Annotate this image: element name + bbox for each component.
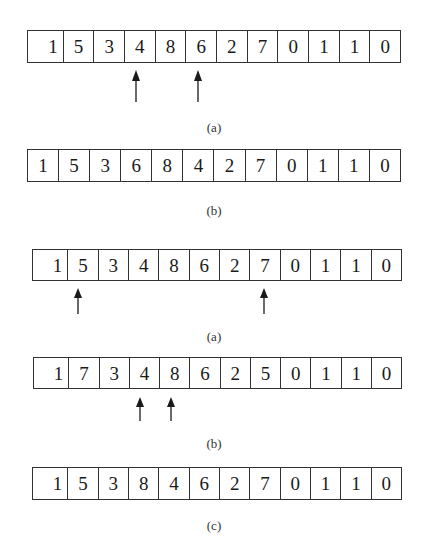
gene-cell: 0 xyxy=(277,150,308,181)
panel-caption: (b) xyxy=(0,203,428,219)
gene-cell: 0 xyxy=(281,358,311,388)
gene-cell: 0 xyxy=(372,468,401,499)
gene-cell: 5 xyxy=(68,468,98,499)
gene-cell: 5 xyxy=(251,358,281,388)
gene-cell: 4 xyxy=(183,150,214,181)
chromosome-row-fig2-a: 1 5 3 4 8 6 2 7 0 1 1 0 xyxy=(32,249,402,281)
gene-cell: 6 xyxy=(190,250,220,280)
gene-cell: 7 xyxy=(69,358,99,388)
gene-cell: 2 xyxy=(217,31,248,62)
panel-caption: (b) xyxy=(0,436,428,452)
gene-cell: 2 xyxy=(220,250,250,280)
gene-cell: 1 xyxy=(33,250,68,280)
panel-caption: (a) xyxy=(0,329,428,345)
gene-cell: 0 xyxy=(281,468,311,499)
gene-cell: 6 xyxy=(190,358,220,388)
gene-cell: 7 xyxy=(248,31,279,62)
gene-cell: 1 xyxy=(33,468,68,499)
gene-cell: 8 xyxy=(159,250,189,280)
gene-cell: 1 xyxy=(342,358,372,388)
up-arrow-icon xyxy=(193,70,203,102)
gene-cell: 1 xyxy=(311,468,341,499)
panel-caption: (c) xyxy=(0,518,428,534)
gene-cell: 6 xyxy=(186,31,217,62)
gene-cell: 7 xyxy=(250,468,280,499)
gene-cell: 4 xyxy=(125,31,156,62)
gene-cell: 0 xyxy=(370,150,400,181)
gene-cell: 1 xyxy=(341,468,371,499)
up-arrow-icon xyxy=(131,70,141,102)
panel-caption: (a) xyxy=(0,120,428,136)
gene-cell: 1 xyxy=(341,250,371,280)
gene-cell: 2 xyxy=(221,358,251,388)
up-arrow-icon xyxy=(73,288,83,314)
gene-cell: 2 xyxy=(220,468,250,499)
gene-cell: 5 xyxy=(64,31,95,62)
gene-cell: 1 xyxy=(309,31,340,62)
gene-cell: 1 xyxy=(339,150,370,181)
up-arrow-icon xyxy=(259,288,269,314)
gene-cell: 6 xyxy=(121,150,152,181)
gene-cell: 0 xyxy=(278,31,309,62)
up-arrow-icon xyxy=(166,397,176,421)
gene-cell: 0 xyxy=(370,31,400,62)
gene-cell: 0 xyxy=(372,358,401,388)
chromosome-row-fig1-a: 1 5 3 4 8 6 2 7 0 1 1 0 xyxy=(27,30,401,63)
gene-cell: 5 xyxy=(68,250,98,280)
gene-cell: 1 xyxy=(34,358,69,388)
chromosome-row-fig1-b: 1 5 3 6 8 4 2 7 0 1 1 0 xyxy=(27,149,401,182)
gene-cell: 3 xyxy=(99,468,129,499)
gene-cell: 4 xyxy=(159,468,189,499)
up-arrow-icon xyxy=(135,397,145,421)
chromosome-row-fig2-b: 1 7 3 4 8 6 2 5 0 1 1 0 xyxy=(33,357,402,389)
gene-cell: 1 xyxy=(340,31,371,62)
gene-cell: 4 xyxy=(130,358,160,388)
gene-cell: 1 xyxy=(28,31,64,62)
gene-cell: 3 xyxy=(100,358,130,388)
gene-cell: 8 xyxy=(156,31,187,62)
gene-cell: 7 xyxy=(250,250,280,280)
gene-cell: 1 xyxy=(311,358,341,388)
gene-cell: 1 xyxy=(28,150,59,181)
gene-cell: 0 xyxy=(281,250,311,280)
gene-cell: 4 xyxy=(129,250,159,280)
gene-cell: 3 xyxy=(94,31,125,62)
gene-cell: 1 xyxy=(308,150,339,181)
gene-cell: 0 xyxy=(372,250,401,280)
chromosome-row-fig2-c: 1 5 3 8 4 6 2 7 0 1 1 0 xyxy=(32,467,402,500)
gene-cell: 3 xyxy=(99,250,129,280)
gene-cell: 3 xyxy=(90,150,121,181)
gene-cell: 7 xyxy=(246,150,277,181)
gene-cell: 8 xyxy=(152,150,183,181)
gene-cell: 6 xyxy=(190,468,220,499)
gene-cell: 1 xyxy=(311,250,341,280)
gene-cell: 8 xyxy=(129,468,159,499)
gene-cell: 2 xyxy=(214,150,245,181)
gene-cell: 8 xyxy=(160,358,190,388)
gene-cell: 5 xyxy=(59,150,90,181)
